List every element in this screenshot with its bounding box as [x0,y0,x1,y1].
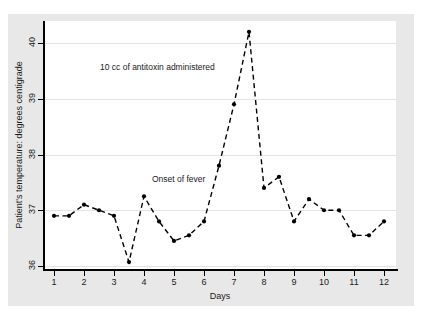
temperature-chart-figure: 40 39 38 37 36 1 2 3 4 5 6 7 8 9 10 11 1… [0,0,422,320]
series-markers [52,30,386,264]
series-line [54,32,384,262]
data-point [247,30,251,34]
data-point [97,208,101,212]
data-point [217,164,221,168]
data-point [277,175,281,179]
temperature-series [0,0,422,320]
data-point [172,239,176,243]
data-point [232,102,236,106]
data-point [322,208,326,212]
data-point [337,208,341,212]
data-point [112,214,116,218]
data-point [292,219,296,223]
data-point [187,233,191,237]
data-point [367,233,371,237]
data-point [82,203,86,207]
data-point [352,233,356,237]
data-point [157,219,161,223]
data-point [142,194,146,198]
data-point [52,214,56,218]
data-point [262,186,266,190]
data-point [202,219,206,223]
data-point [382,219,386,223]
data-point [307,197,311,201]
data-point [67,214,71,218]
data-point [127,260,131,264]
